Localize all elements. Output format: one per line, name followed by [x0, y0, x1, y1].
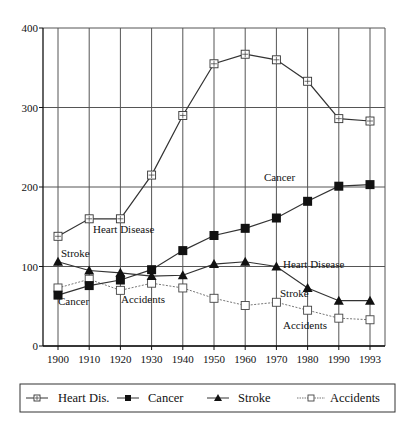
annotation-label: Stroke [280, 287, 309, 299]
x-tick-label: 1930 [141, 353, 164, 365]
x-tick-label: 1993 [359, 353, 382, 365]
x-tick-label: 1970 [265, 353, 288, 365]
annotation-label: Accidents [283, 319, 327, 331]
y-tick-label: 300 [22, 102, 39, 114]
x-tick-label: 1980 [297, 353, 320, 365]
annotation-label: Cancer [58, 295, 89, 307]
x-tick-label: 1920 [109, 353, 132, 365]
x-tick-label: 1900 [47, 353, 70, 365]
y-tick-label: 0 [33, 340, 39, 352]
x-tick-label: 1960 [234, 353, 257, 365]
axes: 0100200300400190019101920193019401950196… [22, 22, 386, 365]
y-tick-label: 100 [22, 261, 39, 273]
legend-label: Accidents [330, 391, 380, 405]
x-tick-label: 1910 [78, 353, 101, 365]
y-tick-label: 200 [22, 181, 39, 193]
annotation-label: Heart Disease [283, 258, 345, 270]
legend-label: Cancer [148, 391, 184, 405]
y-tick-label: 400 [22, 22, 39, 34]
annotations: Heart DiseaseHeart DiseaseCancerStrokeCa… [58, 171, 345, 331]
legend-label: Stroke [238, 391, 271, 405]
x-tick-label: 1950 [203, 353, 226, 365]
legend-label: Heart Dis. [58, 391, 109, 405]
x-tick-label: 1940 [172, 353, 195, 365]
annotation-label: Accidents [121, 293, 165, 305]
line-chart: 0100200300400190019101920193019401950196… [0, 0, 411, 427]
annotation-label: Stroke [61, 247, 90, 259]
x-tick-label: 1990 [328, 353, 351, 365]
annotation-label: Heart Disease [93, 223, 155, 235]
legend: Heart Dis.CancerStrokeAccidents [20, 384, 395, 412]
annotation-label: Cancer [264, 171, 295, 183]
